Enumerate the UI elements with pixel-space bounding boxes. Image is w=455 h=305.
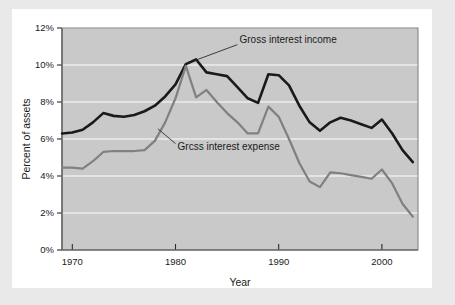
- y-tick-label-10: 10%: [35, 59, 55, 70]
- y-tick-label-4: 4%: [40, 170, 54, 181]
- y-tick-label-12: 12%: [35, 22, 55, 33]
- y-tick-label-0: 0%: [40, 244, 54, 255]
- x-tick-label-1970: 1970: [62, 256, 83, 267]
- y-axis-title: Percent of assets: [20, 98, 32, 179]
- annotation-gross-interest-income-label: Gross interest income: [239, 34, 337, 45]
- x-axis-title: Year: [229, 276, 251, 288]
- y-tick-label-6: 6%: [40, 133, 54, 144]
- chart-canvas: 0%2%4%6%8%10%12%1970198019902000Gross in…: [12, 9, 432, 288]
- x-tick-label-2000: 2000: [371, 256, 392, 267]
- figure-card: 0%2%4%6%8%10%12%1970198019902000Gross in…: [12, 9, 432, 288]
- y-tick-label-2: 2%: [40, 207, 54, 218]
- annotation-gross-interest-expense-label: Grcss interest expense: [178, 141, 281, 152]
- x-tick-label-1980: 1980: [165, 256, 186, 267]
- y-tick-label-8: 8%: [40, 96, 54, 107]
- x-tick-label-1990: 1990: [268, 256, 289, 267]
